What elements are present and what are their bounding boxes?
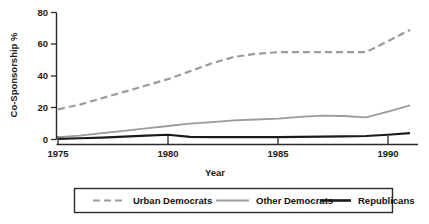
x-tick-label-1985: 1985 (267, 148, 289, 159)
series-line-other-democrats (58, 105, 410, 137)
y-tick-label-60: 60 (37, 38, 48, 49)
legend-label-urban-democrats: Urban Democrats (133, 195, 212, 206)
y-tick-label-0: 0 (43, 134, 48, 145)
y-tick-marks (51, 13, 57, 140)
y-tick-label-80: 80 (37, 7, 48, 18)
chart-svg: Co-Sponsorship % 80 60 40 20 0 (0, 0, 429, 224)
series-line-urban-democrats (58, 30, 410, 109)
chart-figure: Co-Sponsorship % 80 60 40 20 0 (0, 0, 429, 224)
y-tick-labels: 80 60 40 20 0 (37, 7, 48, 145)
series-line-republicans (58, 133, 410, 139)
y-tick-label-20: 20 (37, 102, 48, 113)
y-tick-label-40: 40 (37, 70, 48, 81)
x-tick-label-1980: 1980 (157, 148, 178, 159)
series-layer (58, 30, 410, 139)
x-axis-title: Year (205, 167, 225, 178)
x-tick-label-1975: 1975 (47, 148, 69, 159)
x-tick-labels: 1975 1980 1985 1990 (47, 148, 398, 159)
x-tick-label-1990: 1990 (377, 148, 398, 159)
legend-label-republicans: Republicans (358, 195, 415, 206)
y-axis-title: Co-Sponsorship % (8, 32, 19, 118)
